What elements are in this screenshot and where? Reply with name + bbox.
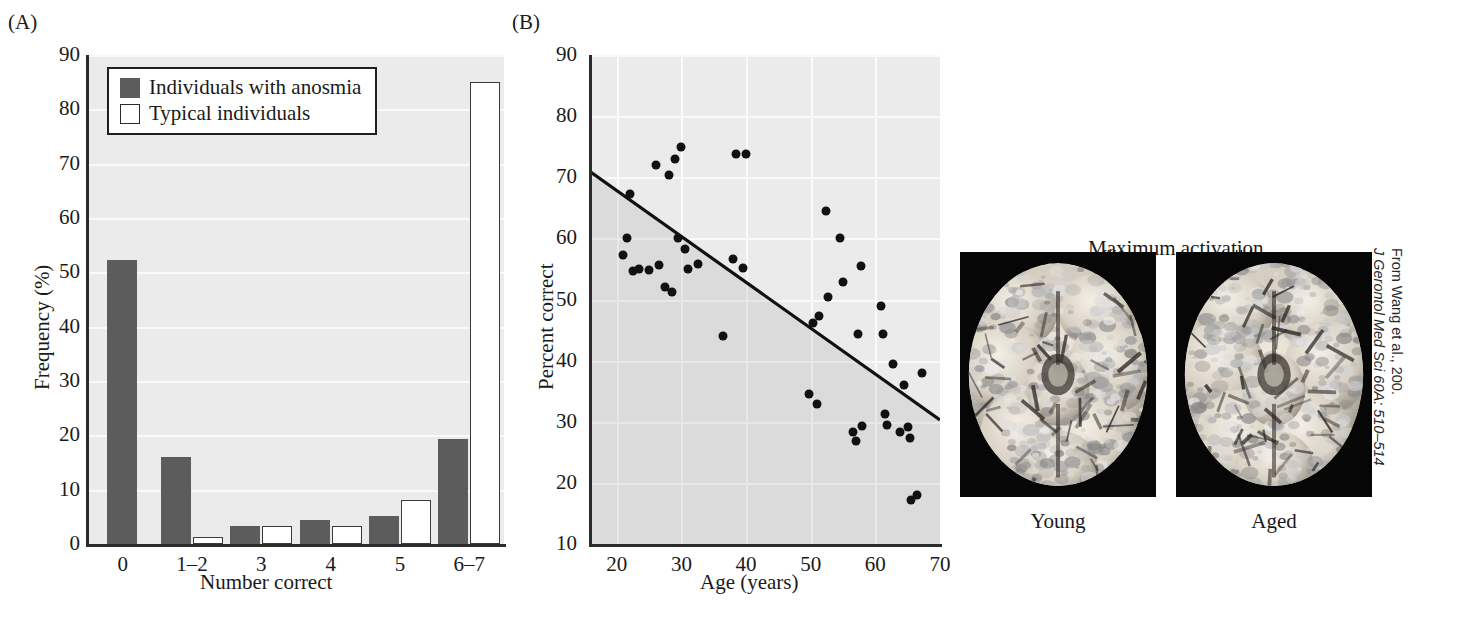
bar [369, 516, 399, 544]
legend-swatch-light [120, 104, 140, 124]
x-tick-label: 5 [360, 552, 440, 577]
scatter-point [674, 234, 683, 243]
panel-a-x-axis [86, 544, 506, 547]
scatter-point [881, 410, 890, 419]
panel-a-x-axis-title: Number correct [200, 570, 332, 595]
gridline-horizontal [591, 177, 940, 179]
scatter-point [815, 312, 824, 321]
panel-a-legend: Individuals with anosmiaTypical individu… [107, 67, 377, 135]
scatter-point [879, 329, 888, 338]
scatter-point [903, 422, 912, 431]
bar [401, 500, 431, 544]
bar [438, 439, 468, 544]
scatter-point [823, 293, 832, 302]
panel-b-x-axis [589, 544, 942, 547]
panel-b-y-axis [589, 55, 592, 546]
panel-b-y-axis-title: Percent correct [534, 263, 559, 390]
figure-root: (A) 0102030405060708090 01–23456–7 Frequ… [0, 0, 1476, 628]
scatter-point [913, 491, 922, 500]
y-tick-label: 60 [36, 205, 80, 230]
scatter-point [738, 264, 747, 273]
bar [300, 520, 330, 544]
scatter-point [729, 255, 738, 264]
scatter-point [719, 331, 728, 340]
scatter-point [839, 277, 848, 286]
scatter-point [654, 261, 663, 270]
bar [470, 82, 500, 544]
brain-render [960, 252, 1156, 497]
scatter-point [645, 265, 654, 274]
scatter-point [625, 189, 634, 198]
scatter-point [635, 264, 644, 273]
scatter-point [905, 434, 914, 443]
y-tick-label: 20 [36, 422, 80, 447]
scatter-point [883, 421, 892, 430]
x-tick-label: 0 [83, 552, 163, 577]
brain-caption-brain-aged: Aged [1176, 509, 1372, 534]
y-tick-label: 30 [533, 409, 577, 434]
scatter-point [742, 150, 751, 159]
panel-a-y-axis [86, 55, 89, 546]
bar-group [369, 55, 431, 544]
scatter-point [889, 359, 898, 368]
y-tick-label: 70 [36, 151, 80, 176]
scatter-point [619, 250, 628, 259]
y-tick-label: 90 [36, 42, 80, 67]
y-tick-label: 80 [533, 103, 577, 128]
bar [107, 260, 137, 544]
scatter-point [805, 390, 814, 399]
legend-swatch-dark [120, 78, 140, 98]
scatter-point [848, 427, 857, 436]
scatter-point [900, 381, 909, 390]
panel-a-y-axis-title: Frequency (%) [30, 265, 55, 390]
gridline-horizontal [591, 116, 940, 118]
brain-image-brain-aged [1176, 252, 1372, 497]
scatter-point [693, 260, 702, 269]
bar [193, 537, 223, 544]
scatter-point [813, 400, 822, 409]
legend-label: Typical individuals [149, 102, 310, 125]
scatter-point [851, 436, 860, 445]
scatter-point [876, 301, 885, 310]
scatter-point [683, 264, 692, 273]
gridline-horizontal [591, 55, 940, 57]
panel-b-plot-area [591, 55, 940, 544]
scatter-point [622, 234, 631, 243]
y-tick-label: 10 [533, 531, 577, 556]
scatter-point [917, 368, 926, 377]
y-tick-label: 20 [533, 470, 577, 495]
panel-b-tag: (B) [512, 10, 540, 35]
scatter-point [664, 171, 673, 180]
scatter-point [677, 142, 686, 151]
bar [262, 526, 292, 544]
scatter-point [858, 422, 867, 431]
scatter-point [835, 233, 844, 242]
y-tick-label: 60 [533, 225, 577, 250]
y-tick-label: 0 [36, 531, 80, 556]
scatter-point [732, 150, 741, 159]
brain-caption-brain-young: Young [960, 509, 1156, 534]
bar-group [438, 55, 500, 544]
y-tick-label: 10 [36, 477, 80, 502]
legend-item: Individuals with anosmia [120, 76, 361, 99]
bar [230, 526, 260, 544]
legend-item: Typical individuals [120, 102, 361, 125]
y-tick-label: 70 [533, 164, 577, 189]
scatter-point [671, 154, 680, 163]
source-credit: From Wang et al., 200. J Gerontol Med Sc… [1370, 248, 1406, 578]
legend-label: Individuals with anosmia [149, 76, 361, 99]
bar [332, 526, 362, 544]
bar [161, 457, 191, 544]
y-tick-label: 90 [533, 42, 577, 67]
brain-render [1176, 252, 1372, 497]
credit-line-2: J Gerontol Med Sci 60A: 510–514 [1371, 248, 1387, 466]
y-tick-label: 80 [36, 96, 80, 121]
scatter-point [821, 206, 830, 215]
x-tick-label: 70 [900, 552, 980, 577]
x-tick-label: 6–7 [429, 552, 509, 577]
brain-image-brain-young [960, 252, 1156, 497]
scatter-point [680, 245, 689, 254]
panel-b-x-axis-title: Age (years) [700, 570, 799, 595]
credit-line-1: From Wang et al., 200. [1389, 248, 1405, 395]
scatter-point [853, 329, 862, 338]
